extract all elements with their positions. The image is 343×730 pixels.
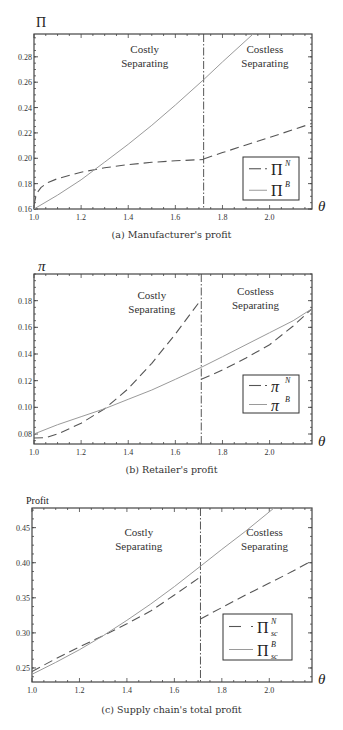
x-tick-label: 1.2 bbox=[74, 686, 84, 695]
legend-label: π bbox=[271, 397, 280, 414]
series-line bbox=[34, 160, 204, 206]
y-tick-label: 0.18 bbox=[18, 180, 32, 189]
legend: ΠNΠB bbox=[243, 157, 299, 200]
x-tick-label: 1.2 bbox=[76, 213, 86, 222]
y-tick-label: 0.25 bbox=[16, 664, 30, 673]
legend-label: Π bbox=[271, 182, 283, 199]
y-tick-label: 0.30 bbox=[16, 629, 30, 638]
x-axis-label: θ bbox=[318, 198, 326, 214]
legend-label: Π bbox=[271, 161, 283, 178]
y-tick-label: 0.18 bbox=[18, 297, 32, 306]
x-tick-label: 1.8 bbox=[217, 213, 227, 222]
legend-label: π bbox=[271, 378, 280, 395]
x-tick-label: 2.0 bbox=[264, 686, 274, 695]
y-axis-label: π bbox=[38, 258, 46, 274]
y-tick-label: 0.14 bbox=[18, 350, 32, 359]
caption-manufacturer-profit: (a) Manufacturer's profit bbox=[0, 229, 343, 240]
chart-retailer-profit: 0.080.100.120.140.160.181.01.21.41.61.82… bbox=[18, 258, 326, 457]
y-tick-label: 0.10 bbox=[18, 403, 32, 412]
legend-superscript: B bbox=[285, 180, 290, 189]
y-tick-label: 0.45 bbox=[16, 524, 30, 533]
x-tick-label: 1.4 bbox=[123, 213, 133, 222]
series-line bbox=[34, 309, 312, 434]
y-tick-label: 0.12 bbox=[18, 377, 32, 386]
x-tick-label: 1.2 bbox=[76, 448, 86, 457]
x-axis-label: θ bbox=[318, 433, 326, 449]
y-axis-label: Profit bbox=[26, 495, 49, 506]
y-tick-label: 0.40 bbox=[16, 559, 30, 568]
x-tick-label: 1.0 bbox=[29, 448, 39, 457]
region-label: CostlessSeparating bbox=[232, 285, 280, 311]
series-line bbox=[34, 299, 201, 438]
x-tick-label: 1.8 bbox=[217, 686, 227, 695]
legend-superscript: N bbox=[284, 159, 291, 168]
y-tick-label: 0.35 bbox=[16, 594, 30, 603]
figure-canvas: 0.160.180.200.220.240.260.281.01.21.41.6… bbox=[0, 0, 343, 730]
caption-supply-chain-profit: (c) Supply chain's total profit bbox=[0, 704, 343, 715]
y-tick-label: 0.16 bbox=[18, 323, 32, 332]
x-tick-label: 1.6 bbox=[170, 448, 180, 457]
legend-superscript: B bbox=[271, 640, 276, 649]
legend-superscript: N bbox=[270, 617, 277, 626]
y-tick-label: 0.28 bbox=[18, 53, 32, 62]
y-tick-label: 0.26 bbox=[18, 78, 32, 87]
x-tick-label: 1.0 bbox=[27, 686, 37, 695]
y-tick-label: 0.24 bbox=[18, 104, 32, 113]
legend-superscript: B bbox=[285, 395, 290, 404]
series-line bbox=[204, 123, 312, 158]
legend: πNπB bbox=[243, 375, 299, 414]
x-tick-label: 1.4 bbox=[122, 686, 132, 695]
x-tick-label: 1.8 bbox=[217, 448, 227, 457]
region-label: CostlySeparating bbox=[121, 43, 169, 69]
caption-retailer-profit: (b) Retailer's profit bbox=[0, 464, 343, 475]
legend-label: Π bbox=[257, 642, 269, 659]
legend-superscript: N bbox=[284, 376, 291, 385]
region-label: CostlessSeparating bbox=[241, 526, 289, 552]
x-tick-label: 1.6 bbox=[169, 686, 179, 695]
x-tick-label: 1.6 bbox=[170, 213, 180, 222]
y-tick-label: 0.08 bbox=[18, 430, 32, 439]
x-tick-label: 2.0 bbox=[265, 213, 275, 222]
x-tick-label: 2.0 bbox=[265, 448, 275, 457]
chart-manufacturer-profit: 0.160.180.200.220.240.260.281.01.21.41.6… bbox=[18, 15, 326, 222]
region-label: CostlySeparating bbox=[128, 289, 176, 315]
y-axis-label: Π bbox=[36, 15, 46, 30]
region-label: CostlySeparating bbox=[115, 526, 163, 552]
legend: ΠNscΠBsc bbox=[223, 614, 292, 661]
legend-subscript: sc bbox=[271, 652, 278, 661]
series-line bbox=[201, 561, 313, 619]
legend-label: Π bbox=[257, 619, 269, 636]
chart-supply-chain-profit: 0.250.300.350.400.451.01.21.41.61.82.0θP… bbox=[16, 495, 326, 695]
y-tick-label: 0.22 bbox=[18, 129, 32, 138]
y-tick-label: 0.20 bbox=[18, 154, 32, 163]
legend-subscript: sc bbox=[271, 629, 278, 638]
x-axis-label: θ bbox=[318, 671, 326, 687]
region-label: CostlessSeparating bbox=[241, 43, 289, 69]
series-line bbox=[32, 577, 201, 672]
x-tick-label: 1.0 bbox=[29, 213, 39, 222]
x-tick-label: 1.4 bbox=[123, 448, 133, 457]
